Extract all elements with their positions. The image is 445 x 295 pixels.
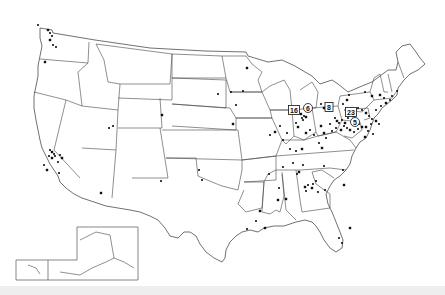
site-marker bbox=[54, 155, 56, 157]
site-marker bbox=[301, 117, 303, 119]
site-marker bbox=[343, 125, 345, 127]
site-marker bbox=[282, 139, 284, 141]
site-marker bbox=[347, 117, 349, 119]
site-marker bbox=[378, 123, 380, 125]
site-marker bbox=[311, 187, 313, 189]
site-marker bbox=[335, 127, 337, 129]
site-marker bbox=[49, 32, 51, 34]
cluster-label: 16 bbox=[289, 106, 300, 115]
site-marker bbox=[338, 237, 340, 239]
site-marker bbox=[198, 169, 200, 171]
alaska-hawaii-inset bbox=[16, 227, 138, 280]
site-marker bbox=[278, 187, 280, 189]
site-marker bbox=[389, 99, 391, 101]
site-marker bbox=[370, 123, 372, 125]
site-marker bbox=[309, 129, 311, 131]
site-marker bbox=[365, 112, 367, 114]
site-marker bbox=[277, 199, 279, 201]
site-marker bbox=[100, 192, 102, 194]
site-marker bbox=[47, 29, 49, 31]
state-borders bbox=[34, 42, 404, 220]
us-map: 1668235 bbox=[0, 0, 445, 295]
site-marker bbox=[46, 169, 48, 171]
site-marker bbox=[235, 104, 237, 106]
site-marker bbox=[375, 109, 377, 111]
cluster-label: 23 bbox=[346, 108, 357, 117]
site-marker bbox=[317, 191, 319, 193]
site-marker bbox=[385, 102, 387, 104]
site-marker bbox=[49, 149, 51, 151]
site-marker bbox=[53, 153, 55, 155]
svg-text:23: 23 bbox=[347, 109, 355, 116]
site-marker bbox=[285, 198, 287, 200]
site-marker bbox=[343, 184, 345, 186]
site-marker bbox=[52, 44, 54, 46]
site-marker bbox=[379, 94, 381, 96]
site-markers bbox=[37, 24, 398, 244]
site-marker bbox=[49, 39, 51, 41]
site-marker bbox=[44, 61, 46, 63]
svg-text:6: 6 bbox=[306, 105, 310, 112]
site-marker bbox=[329, 123, 331, 125]
site-marker bbox=[305, 132, 307, 134]
site-marker bbox=[246, 67, 248, 69]
site-marker bbox=[43, 164, 45, 166]
site-marker bbox=[259, 210, 261, 212]
site-marker bbox=[375, 120, 377, 122]
cluster-label: 5 bbox=[351, 118, 360, 127]
site-marker bbox=[51, 35, 53, 37]
site-marker bbox=[341, 119, 343, 121]
site-marker bbox=[296, 173, 298, 175]
site-marker bbox=[286, 132, 288, 134]
site-marker bbox=[61, 157, 63, 159]
site-marker bbox=[295, 122, 297, 124]
site-marker bbox=[303, 115, 305, 117]
site-marker bbox=[357, 107, 359, 109]
site-marker bbox=[298, 171, 300, 173]
site-marker bbox=[346, 127, 348, 129]
site-marker bbox=[305, 116, 307, 118]
site-marker bbox=[367, 130, 369, 132]
site-marker bbox=[51, 151, 53, 153]
site-marker bbox=[323, 165, 325, 167]
site-marker bbox=[331, 130, 333, 132]
site-marker bbox=[312, 183, 314, 185]
cluster-label: 8 bbox=[325, 103, 333, 112]
site-marker bbox=[361, 109, 363, 111]
site-marker bbox=[357, 128, 359, 130]
site-marker bbox=[325, 137, 327, 139]
site-marker bbox=[320, 125, 322, 127]
site-marker bbox=[307, 184, 309, 186]
site-marker bbox=[279, 125, 281, 127]
site-marker bbox=[323, 132, 325, 134]
site-marker bbox=[318, 142, 320, 144]
site-marker bbox=[304, 186, 306, 188]
site-marker bbox=[108, 127, 110, 129]
site-marker bbox=[342, 169, 344, 171]
site-marker bbox=[349, 129, 351, 131]
site-marker bbox=[380, 105, 382, 107]
site-marker bbox=[297, 126, 299, 128]
site-marker bbox=[255, 220, 257, 222]
site-marker bbox=[364, 136, 366, 138]
site-marker bbox=[305, 190, 307, 192]
site-marker bbox=[302, 119, 304, 121]
site-marker bbox=[232, 123, 234, 125]
svg-text:16: 16 bbox=[290, 107, 298, 114]
site-marker bbox=[371, 118, 373, 120]
bottom-strip bbox=[0, 286, 445, 295]
site-marker bbox=[391, 95, 393, 97]
site-marker bbox=[372, 133, 374, 135]
site-marker bbox=[230, 91, 232, 93]
site-marker bbox=[334, 117, 336, 119]
site-marker bbox=[289, 148, 291, 150]
site-marker bbox=[302, 164, 304, 166]
site-marker bbox=[321, 147, 323, 149]
site-marker bbox=[344, 122, 346, 124]
site-marker bbox=[349, 227, 351, 229]
site-marker bbox=[368, 115, 370, 117]
site-marker bbox=[383, 97, 385, 99]
site-marker bbox=[57, 161, 59, 163]
site-marker bbox=[371, 95, 373, 97]
site-marker bbox=[361, 126, 363, 128]
